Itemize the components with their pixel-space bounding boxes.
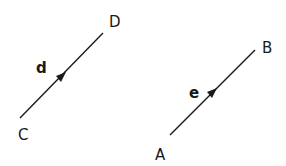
point-a: A (155, 146, 166, 164)
label-e: e (189, 84, 199, 102)
point-d: D (109, 13, 121, 31)
vector-diagram: d D C e B A (0, 0, 286, 166)
point-b: B (262, 39, 272, 57)
point-c: C (18, 126, 28, 144)
vector-d: d D C (18, 13, 121, 144)
label-d: d (36, 59, 47, 77)
vector-e: e B A (155, 39, 272, 164)
